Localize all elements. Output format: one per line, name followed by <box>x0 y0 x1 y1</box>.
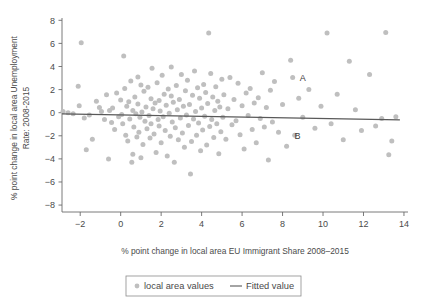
data-point <box>128 78 133 83</box>
data-point <box>123 133 128 138</box>
data-point <box>341 137 346 142</box>
data-point <box>196 121 201 126</box>
data-point <box>90 137 95 142</box>
data-point <box>122 86 127 91</box>
data-point <box>169 93 174 98</box>
data-point <box>112 127 117 132</box>
data-point <box>379 116 384 121</box>
data-point <box>252 100 257 105</box>
data-point <box>168 134 173 139</box>
data-point <box>159 140 164 145</box>
data-point <box>157 123 162 128</box>
data-point <box>386 152 391 157</box>
data-point <box>194 133 199 138</box>
data-point <box>172 160 177 165</box>
data-point <box>188 171 193 176</box>
data-point <box>165 153 170 158</box>
data-point <box>167 111 172 116</box>
data-point <box>164 103 169 108</box>
data-point <box>389 138 394 143</box>
data-point <box>82 115 87 120</box>
x-tick-label: 10 <box>318 219 328 229</box>
data-point <box>169 65 174 70</box>
data-point <box>264 105 269 110</box>
data-point <box>207 124 212 129</box>
data-point <box>154 150 159 155</box>
data-point <box>220 115 225 120</box>
data-point <box>135 102 140 107</box>
y-tick-label: 8 <box>50 16 55 26</box>
data-point <box>184 113 189 118</box>
data-point <box>276 130 281 135</box>
y-tick-label: 6 <box>50 39 55 49</box>
data-point <box>236 81 241 86</box>
data-point <box>87 113 92 118</box>
data-point <box>177 97 182 102</box>
data-point <box>126 99 131 104</box>
data-point <box>138 155 143 160</box>
data-point <box>125 138 130 143</box>
data-point <box>135 74 140 79</box>
data-point <box>268 88 273 93</box>
data-point <box>231 97 236 102</box>
data-point <box>204 143 209 148</box>
data-point <box>181 104 186 109</box>
y-tick-label: −2 <box>45 131 55 141</box>
data-point <box>106 156 111 161</box>
data-point <box>225 106 230 111</box>
data-point <box>132 95 137 100</box>
data-point <box>203 90 208 95</box>
data-point <box>280 102 285 107</box>
data-point <box>383 30 388 35</box>
data-point <box>260 70 265 75</box>
data-point <box>187 102 192 107</box>
data-point <box>353 107 358 112</box>
data-point <box>213 84 218 89</box>
scatter-plot-figure: 86420−2−4−6−8−202468101214AB% point chan… <box>0 0 426 307</box>
data-point <box>143 104 148 109</box>
data-point <box>99 109 104 114</box>
data-point <box>166 87 171 92</box>
y-tick-label: −6 <box>45 177 55 187</box>
data-point <box>329 121 334 126</box>
data-point <box>121 54 126 59</box>
data-point <box>156 117 161 122</box>
data-point <box>244 91 249 96</box>
x-tick-label: 0 <box>118 219 123 229</box>
data-point <box>373 123 378 128</box>
data-point <box>312 126 317 131</box>
data-point <box>209 117 214 122</box>
data-point <box>393 114 398 119</box>
data-point <box>179 72 184 77</box>
data-point <box>211 135 216 140</box>
data-point <box>163 128 168 133</box>
data-point <box>155 80 160 85</box>
data-point <box>151 106 156 111</box>
data-point <box>200 128 205 133</box>
data-point <box>290 75 295 80</box>
data-point <box>206 31 211 36</box>
data-point <box>197 96 202 101</box>
data-point <box>335 92 340 97</box>
data-point <box>127 117 132 122</box>
data-point <box>258 116 263 121</box>
data-point <box>174 83 179 88</box>
data-point <box>138 82 143 87</box>
data-point <box>208 71 213 76</box>
data-point <box>186 123 191 128</box>
data-point <box>300 115 305 120</box>
legend-label-local-area-values: local area values <box>144 281 214 291</box>
data-point <box>359 128 364 133</box>
data-point <box>306 87 311 92</box>
fitted-value-line <box>62 114 400 120</box>
data-point <box>256 95 261 100</box>
data-point <box>201 82 206 87</box>
legend-label-fitted-value: Fitted value <box>246 281 294 291</box>
data-point <box>214 121 219 126</box>
point-annotation-b: B <box>295 131 301 141</box>
data-point <box>110 106 115 111</box>
data-point <box>104 92 109 97</box>
data-point <box>205 101 210 106</box>
y-tick-label: −8 <box>45 200 55 210</box>
x-tick-label: 4 <box>199 219 204 229</box>
